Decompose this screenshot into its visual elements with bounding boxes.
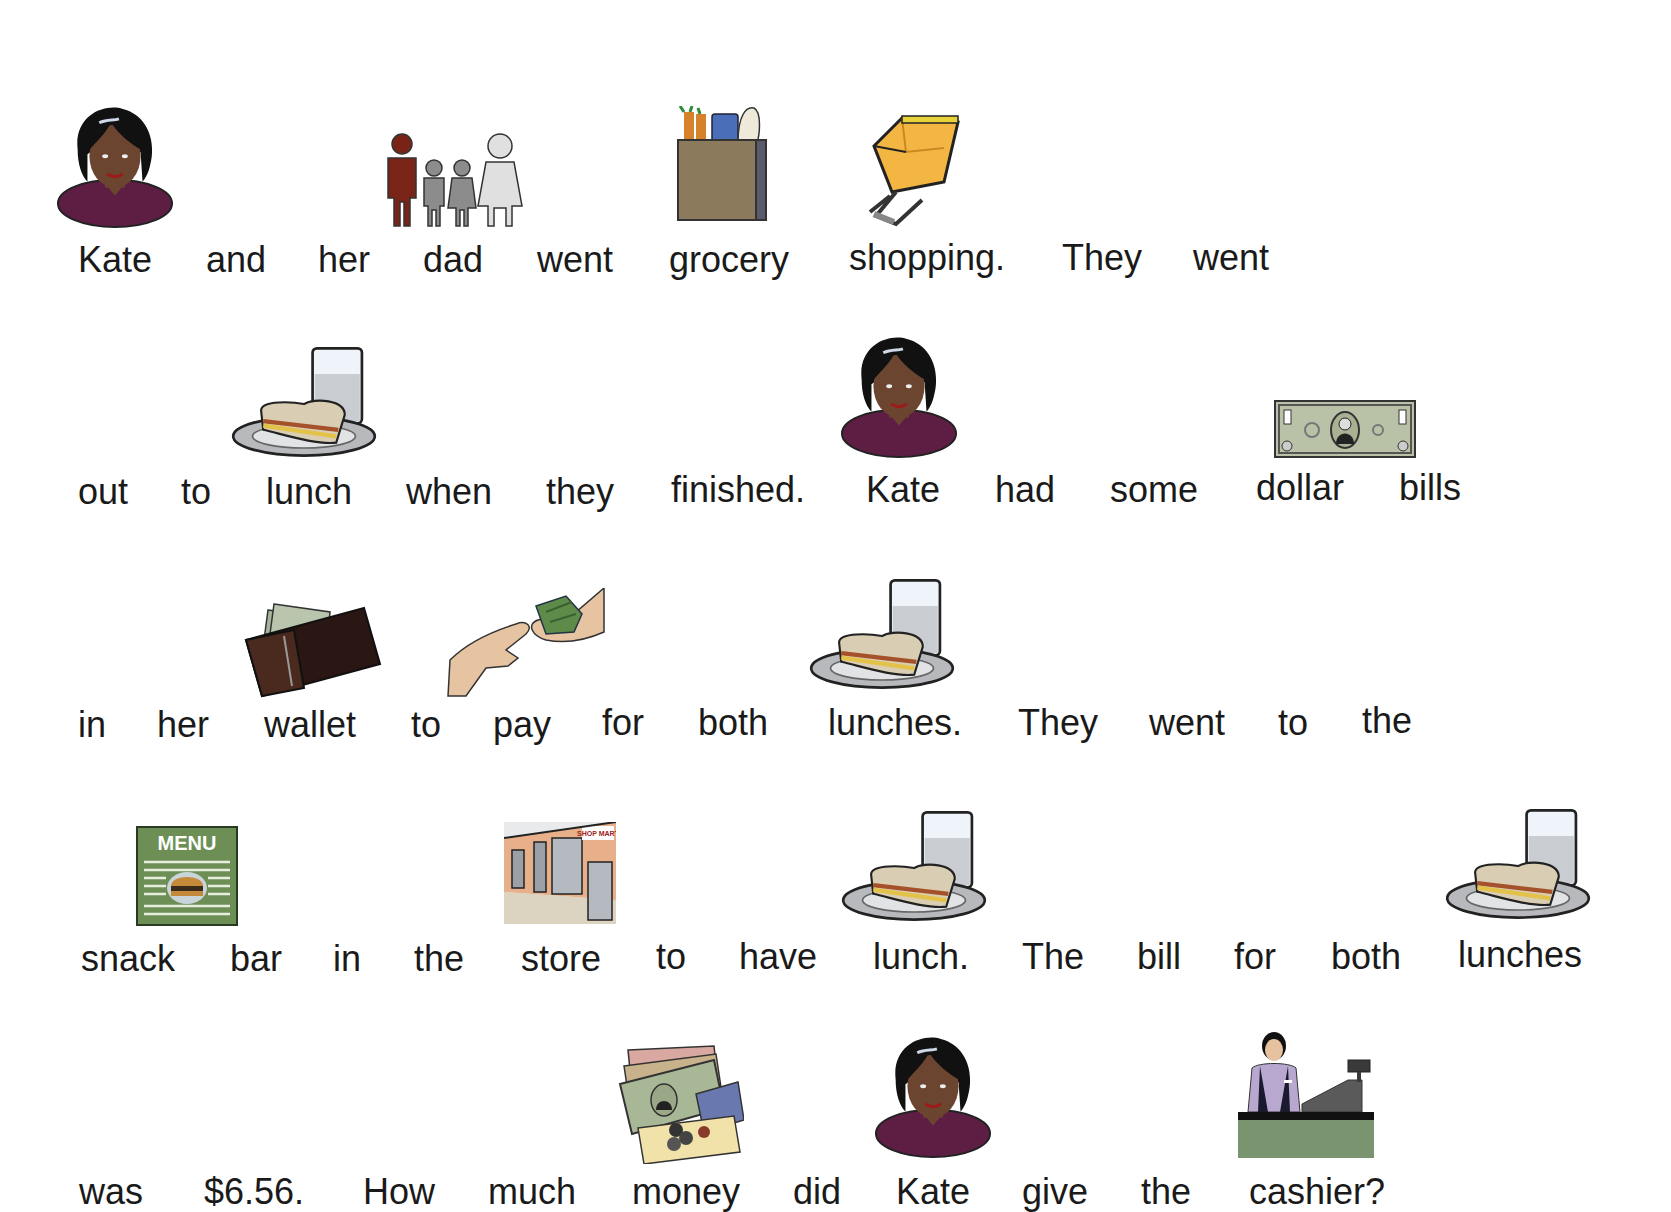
- story-word: lunches: [1458, 935, 1582, 975]
- story-word: lunch: [266, 472, 352, 512]
- story-word: How: [363, 1172, 435, 1212]
- story-word: pay: [493, 705, 551, 745]
- story-word: her: [157, 705, 209, 745]
- person-kate-icon: [874, 1034, 992, 1159]
- money-cash-cards-icon: [618, 1044, 744, 1164]
- story-word: to: [656, 937, 686, 977]
- story-word: $6.56.: [204, 1172, 304, 1212]
- story-word: did: [793, 1172, 841, 1212]
- story-word: both: [1331, 937, 1401, 977]
- menu-snack-bar-icon: MENU: [136, 826, 238, 926]
- story-word: lunch.: [873, 937, 969, 977]
- story-word: in: [333, 939, 361, 979]
- story-word: lunches.: [828, 703, 962, 743]
- story-word: for: [602, 703, 644, 743]
- store-front-icon: SHOP MART: [504, 822, 616, 924]
- lunch-sandwich-milk-icon: [838, 808, 990, 926]
- wallet-icon: [244, 600, 382, 698]
- story-word: for: [1234, 937, 1276, 977]
- story-word: dollar: [1256, 468, 1344, 508]
- story-word: to: [181, 472, 211, 512]
- story-word: wallet: [264, 705, 356, 745]
- story-word: had: [995, 470, 1055, 510]
- svg-text:SHOP MART: SHOP MART: [577, 830, 616, 837]
- story-word: the: [1362, 701, 1412, 741]
- story-word: cashier?: [1249, 1172, 1385, 1212]
- family-icon: [382, 132, 530, 228]
- lunch-sandwich-milk-icon: [228, 344, 380, 462]
- story-word: money: [632, 1172, 740, 1212]
- shopping-cart-icon: [862, 112, 962, 230]
- story-word: They: [1062, 238, 1142, 278]
- story-word: in: [78, 705, 106, 745]
- story-word: to: [1278, 703, 1308, 743]
- story-word: went: [537, 240, 613, 280]
- story-word: bills: [1399, 468, 1461, 508]
- story-word: finished.: [671, 470, 805, 510]
- lunch-sandwich-milk-icon: [806, 576, 958, 694]
- story-word: went: [1193, 238, 1269, 278]
- story-word: have: [739, 937, 817, 977]
- story-word: was: [79, 1172, 143, 1212]
- story-word: bill: [1137, 937, 1181, 977]
- story-word: some: [1110, 470, 1198, 510]
- story-word: to: [411, 705, 441, 745]
- story-word: The: [1022, 937, 1084, 977]
- story-word: the: [1141, 1172, 1191, 1212]
- story-word: give: [1022, 1172, 1088, 1212]
- story-word: grocery: [669, 240, 789, 280]
- story-word: store: [521, 939, 601, 979]
- story-word: and: [206, 240, 266, 280]
- story-word: her: [318, 240, 370, 280]
- dollar-bill-icon: [1274, 400, 1416, 458]
- story-word: bar: [230, 939, 282, 979]
- story-word: when: [406, 472, 492, 512]
- story-word: they: [546, 472, 614, 512]
- story-word: shopping.: [849, 238, 1005, 278]
- grocery-bag-icon: [672, 106, 770, 224]
- story-word: Kate: [78, 240, 152, 280]
- story-word: snack: [81, 939, 175, 979]
- story-word: out: [78, 472, 128, 512]
- lunch-sandwich-milk-icon: [1442, 806, 1594, 924]
- story-word: went: [1149, 703, 1225, 743]
- story-word: much: [488, 1172, 576, 1212]
- story-word: the: [414, 939, 464, 979]
- story-word: Kate: [866, 470, 940, 510]
- person-kate-icon: [840, 334, 958, 459]
- story-word: Kate: [896, 1172, 970, 1212]
- story-word: They: [1018, 703, 1098, 743]
- pay-hands-money-icon: [446, 588, 606, 698]
- story-word: dad: [423, 240, 483, 280]
- story-word: both: [698, 703, 768, 743]
- cashier-register-icon: [1238, 1032, 1374, 1158]
- svg-text:MENU: MENU: [158, 832, 217, 854]
- person-kate-icon: [56, 104, 174, 229]
